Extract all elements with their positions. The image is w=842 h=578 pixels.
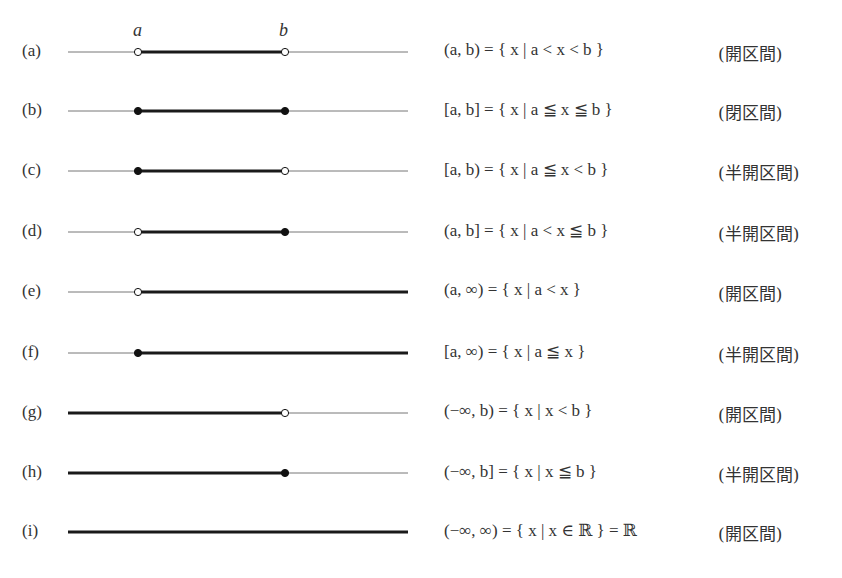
interval-type: (開区間) — [718, 40, 782, 65]
set-builder-formula: [a, b] = { x | a ≦ x ≦ b } — [444, 99, 613, 120]
number-line — [66, 37, 412, 67]
open-endpoint-b-icon — [281, 167, 288, 174]
open-endpoint-a-icon — [134, 48, 141, 55]
set-builder-formula: [a, ∞) = { x | a ≦ x } — [444, 341, 585, 362]
row-label: (i) — [22, 521, 38, 541]
open-endpoint-b-icon — [281, 48, 288, 55]
interval-row-a: (a) (a, b) = { x | a < x < b } (開区間) — [0, 37, 842, 67]
open-endpoint-a-icon — [134, 288, 141, 295]
closed-endpoint-b-icon — [281, 107, 288, 114]
interval-type: (半開区間) — [718, 341, 799, 366]
closed-endpoint-a-icon — [134, 167, 141, 174]
closed-endpoint-a-icon — [134, 107, 141, 114]
closed-endpoint-b-icon — [281, 228, 288, 235]
set-builder-formula: (a, ∞) = { x | a < x } — [444, 280, 581, 300]
interval-type: (開区間) — [718, 401, 782, 426]
interval-row-f: (f) [a, ∞) = { x | a ≦ x } (半開区間) — [0, 338, 842, 368]
number-line — [66, 217, 412, 247]
interval-type: (開区間) — [718, 280, 782, 305]
set-builder-formula: (−∞, ∞) = { x | x ∈ ℝ } = ℝ — [444, 520, 637, 541]
interval-row-c: (c) [a, b) = { x | a ≦ x < b } (半開区間) — [0, 156, 842, 186]
number-line — [66, 338, 412, 368]
set-builder-formula: [a, b) = { x | a ≦ x < b } — [444, 159, 608, 180]
row-label: (h) — [22, 462, 42, 482]
number-line — [66, 398, 412, 428]
interval-row-g: (g) (−∞, b) = { x | x < b } (開区間) — [0, 398, 842, 428]
set-builder-formula: (a, b] = { x | a < x ≦ b } — [444, 220, 608, 241]
row-label: (f) — [22, 342, 39, 362]
row-label: (e) — [22, 281, 41, 301]
row-label: (b) — [22, 100, 42, 120]
interval-row-e: (e) (a, ∞) = { x | a < x } (開区間) — [0, 277, 842, 307]
interval-type: (半開区間) — [718, 159, 799, 184]
interval-row-d: (d) (a, b] = { x | a < x ≦ b } (半開区間) — [0, 217, 842, 247]
interval-type: (半開区間) — [718, 220, 799, 245]
row-label: (c) — [22, 160, 41, 180]
set-builder-formula: (a, b) = { x | a < x < b } — [444, 40, 604, 60]
row-label: (g) — [22, 402, 42, 422]
open-endpoint-a-icon — [134, 228, 141, 235]
number-line — [66, 96, 412, 126]
number-line — [66, 277, 412, 307]
interval-type: (閉区間) — [718, 99, 782, 124]
interval-type: (開区間) — [718, 520, 782, 545]
interval-row-i: (i) (−∞, ∞) = { x | x ∈ ℝ } = ℝ (開区間) — [0, 517, 842, 547]
number-line — [66, 458, 412, 488]
interval-type: (半開区間) — [718, 461, 799, 486]
open-endpoint-b-icon — [281, 409, 288, 416]
interval-row-b: (b) [a, b] = { x | a ≦ x ≦ b } (閉区間) — [0, 96, 842, 126]
closed-endpoint-b-icon — [281, 469, 288, 476]
set-builder-formula: (−∞, b) = { x | x < b } — [444, 401, 592, 421]
set-builder-formula: (−∞, b] = { x | x ≦ b } — [444, 461, 597, 482]
number-line — [66, 156, 412, 186]
row-label: (a) — [22, 41, 41, 61]
closed-endpoint-a-icon — [134, 349, 141, 356]
interval-row-h: (h) (−∞, b] = { x | x ≦ b } (半開区間) — [0, 458, 842, 488]
number-line — [66, 517, 412, 547]
row-label: (d) — [22, 221, 42, 241]
